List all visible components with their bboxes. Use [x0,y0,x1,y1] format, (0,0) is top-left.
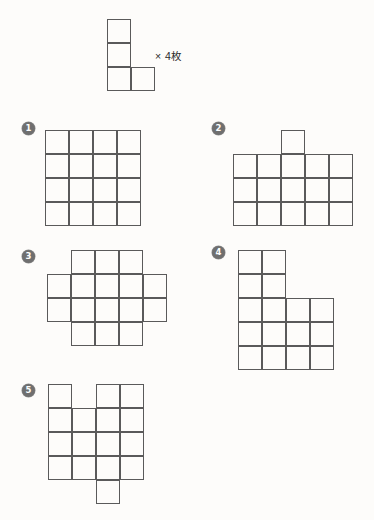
grid-cell [45,178,69,202]
grid-cell [95,322,119,346]
grid-cell [286,346,310,370]
grid-cell [119,250,143,274]
grid-cell [262,274,286,298]
grid-cell [69,130,93,154]
grid-cell [93,202,117,226]
grid-cell [281,130,305,154]
grid-cell [329,154,353,178]
grid-cell [71,298,95,322]
grid-cell [257,178,281,202]
grid-cell [143,298,167,322]
piece-quantity-label: × 4枚 [155,51,182,62]
grid-cell [305,202,329,226]
grid-cell [96,432,120,456]
grid-cell [93,154,117,178]
option-marker-4[interactable]: 4 [212,246,225,259]
grid-cell [305,178,329,202]
grid-cell [72,432,96,456]
option-marker-3[interactable]: 3 [22,250,35,263]
grid-cell [71,274,95,298]
grid-cell [117,202,141,226]
grid-cell [69,178,93,202]
grid-cell [131,67,155,91]
grid-cell [143,274,167,298]
grid-cell [48,384,72,408]
grid-cell [69,202,93,226]
grid-cell [107,43,131,67]
grid-cell [286,298,310,322]
grid-cell [233,178,257,202]
grid-cell [45,130,69,154]
grid-cell [310,346,334,370]
grid-cell [233,154,257,178]
grid-cell [72,456,96,480]
grid-cell [45,202,69,226]
grid-cell [257,154,281,178]
grid-cell [47,274,71,298]
grid-cell [48,408,72,432]
grid-cell [93,178,117,202]
grid-cell [48,456,72,480]
grid-cell [120,408,144,432]
grid-cell [257,202,281,226]
grid-cell [233,202,257,226]
grid-cell [96,480,120,504]
grid-cell [95,298,119,322]
grid-cell [262,298,286,322]
grid-cell [96,456,120,480]
option-marker-1[interactable]: 1 [22,122,35,135]
grid-cell [262,322,286,346]
grid-cell [117,178,141,202]
grid-cell [119,322,143,346]
grid-cell [120,432,144,456]
grid-cell [238,250,262,274]
grid-cell [96,384,120,408]
grid-cell [238,274,262,298]
grid-cell [119,298,143,322]
grid-cell [310,322,334,346]
grid-cell [71,250,95,274]
puzzle-figure: × 4枚 1 2 3 4 5 [0,0,374,520]
grid-cell [120,456,144,480]
grid-cell [95,250,119,274]
grid-cell [117,154,141,178]
grid-cell [329,178,353,202]
grid-cell [69,154,93,178]
grid-cell [262,250,286,274]
grid-cell [281,154,305,178]
grid-cell [72,408,96,432]
option-marker-5[interactable]: 5 [22,384,35,397]
grid-cell [117,130,141,154]
grid-cell [107,19,131,43]
grid-cell [262,346,286,370]
grid-cell [238,298,262,322]
grid-cell [281,202,305,226]
grid-cell [47,298,71,322]
grid-cell [120,384,144,408]
grid-cell [329,202,353,226]
grid-cell [93,130,117,154]
grid-cell [95,274,119,298]
option-marker-2[interactable]: 2 [212,122,225,135]
grid-cell [286,322,310,346]
grid-cell [48,432,72,456]
grid-cell [119,274,143,298]
grid-cell [71,322,95,346]
grid-cell [238,322,262,346]
grid-cell [281,178,305,202]
grid-cell [310,298,334,322]
grid-cell [96,408,120,432]
grid-cell [107,67,131,91]
grid-cell [305,154,329,178]
grid-cell [238,346,262,370]
grid-cell [45,154,69,178]
